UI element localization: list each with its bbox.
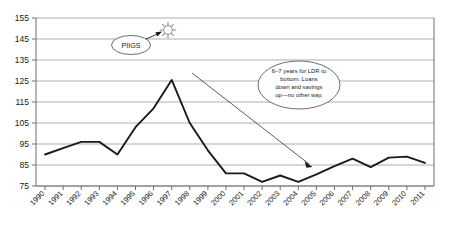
y-tick-label-145: 145 bbox=[15, 34, 29, 44]
y-tick-label-155: 155 bbox=[15, 13, 29, 23]
y-tick-label-85: 85 bbox=[20, 160, 30, 170]
chart-container: 758595105115125135145155 199019911992199… bbox=[0, 0, 452, 229]
sunburst-icon bbox=[160, 22, 176, 38]
ldr-callout-line-3: down and savings bbox=[275, 84, 322, 90]
y-tick-label-135: 135 bbox=[15, 55, 29, 65]
ldr-callout-line-1: 6–7 years for LDR to bbox=[272, 68, 327, 74]
y-tick-label-125: 125 bbox=[15, 76, 29, 86]
y-tick-label-105: 105 bbox=[15, 118, 29, 128]
ldr-bottom-annotation: 6–7 years for LDR to bottom. Loans down … bbox=[258, 61, 340, 109]
y-tick-label-115: 115 bbox=[15, 97, 29, 107]
ldr-callout-line-2: bottom. Loans bbox=[280, 76, 317, 82]
y-tick-label-95: 95 bbox=[20, 139, 30, 149]
line-chart: 758595105115125135145155 199019911992199… bbox=[0, 0, 452, 229]
y-tick-label-75: 75 bbox=[20, 181, 30, 191]
ldr-callout-line-4: up—no other way. bbox=[275, 92, 323, 98]
piigs-label: PIIGS bbox=[121, 41, 140, 50]
